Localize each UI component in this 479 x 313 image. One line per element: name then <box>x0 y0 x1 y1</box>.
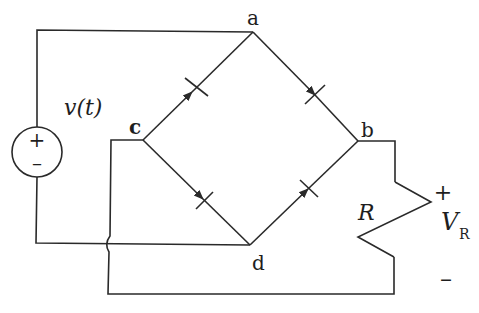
diode-arrow-icon <box>253 32 315 95</box>
wire-source-to-d <box>36 177 250 245</box>
diode-arrow-icon <box>250 189 308 245</box>
source-label: v(t) <box>64 95 102 120</box>
diode-a-b <box>253 32 358 141</box>
diode-arrow-icon <box>143 92 192 140</box>
wire-b-to-resistor <box>358 141 395 182</box>
diode-d-b <box>250 141 358 245</box>
node-label-d: d <box>252 251 265 275</box>
resistor-label: R <box>357 200 375 225</box>
diode-c-a <box>143 32 253 140</box>
load-minus-sign: – <box>440 265 452 293</box>
circuit-diagram: + – v(t) a c b d R + V R – <box>0 0 479 313</box>
wire-c-to-load <box>107 140 394 294</box>
diode-c-d <box>143 140 250 245</box>
load-plus-sign: + <box>434 180 452 205</box>
source-minus-sign: – <box>32 151 42 175</box>
node-label-b: b <box>361 118 374 142</box>
node-label-c: c <box>129 115 141 139</box>
load-voltage-subscript: R <box>459 226 470 242</box>
diode-arrow-icon <box>143 140 203 199</box>
node-label-a: a <box>247 6 259 30</box>
voltage-source: + – v(t) <box>12 95 102 177</box>
source-plus-sign: + <box>29 128 46 152</box>
load-voltage-label: V <box>441 208 461 236</box>
